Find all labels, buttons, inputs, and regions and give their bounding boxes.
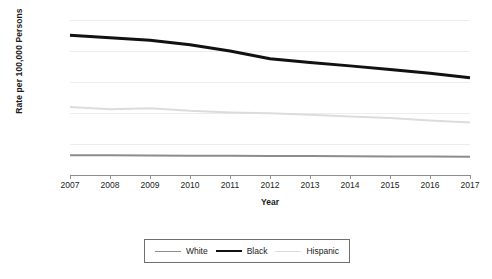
legend-swatch-black-icon	[216, 250, 242, 252]
series-line-black	[70, 35, 470, 77]
legend-label: Black	[247, 246, 268, 256]
legend-item-black[interactable]: Black	[216, 246, 268, 256]
x-tick	[190, 175, 191, 179]
x-tick-label: 2011	[208, 180, 252, 190]
x-tick-label: 2007	[48, 180, 92, 190]
x-tick-label: 2010	[168, 180, 212, 190]
x-tick	[310, 175, 311, 179]
series-line-white	[70, 155, 470, 156]
x-axis-title: Year	[70, 197, 470, 207]
x-tick	[470, 175, 471, 179]
legend-label: Hispanic	[306, 246, 339, 256]
legend-label: White	[186, 246, 208, 256]
x-tick-label: 2014	[328, 180, 372, 190]
x-tick-label: 2012	[248, 180, 292, 190]
x-tick	[230, 175, 231, 179]
x-tick	[110, 175, 111, 179]
series-lines	[70, 20, 470, 175]
x-tick-label: 2015	[368, 180, 412, 190]
legend-swatch-white-icon	[155, 251, 181, 252]
x-tick-label: 2009	[128, 180, 172, 190]
x-tick	[270, 175, 271, 179]
legend: WhiteBlackHispanic	[144, 239, 350, 263]
x-tick	[430, 175, 431, 179]
legend-swatch-hispanic-icon	[275, 251, 301, 252]
legend-item-white[interactable]: White	[155, 246, 208, 256]
x-tick	[390, 175, 391, 179]
x-tick	[150, 175, 151, 179]
plot-area: 05001,0001,5002,0002,500 200720082009201…	[70, 20, 470, 175]
x-tick-label: 2008	[88, 180, 132, 190]
x-tick	[350, 175, 351, 179]
y-axis-title: Rate per 100,000 Persons	[14, 0, 24, 141]
x-tick-label: 2013	[288, 180, 332, 190]
series-line-hispanic	[70, 107, 470, 123]
x-tick-label: 2017	[448, 180, 492, 190]
x-tick	[70, 175, 71, 179]
legend-item-hispanic[interactable]: Hispanic	[275, 246, 339, 256]
line-chart: Rate per 100,000 Persons 05001,0001,5002…	[0, 0, 492, 279]
x-tick-label: 2016	[408, 180, 452, 190]
